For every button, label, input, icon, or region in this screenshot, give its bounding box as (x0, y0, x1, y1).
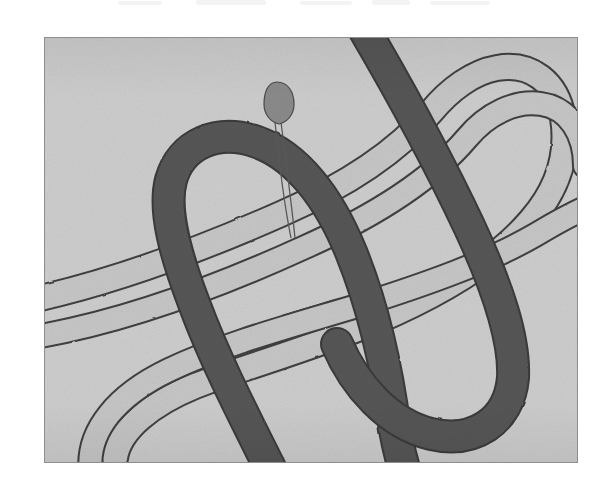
scan-artifact-speck (372, 0, 410, 5)
scan-artifact-speck (300, 1, 352, 5)
scan-artifact-speck (430, 1, 490, 5)
knot-diagram-svg (45, 38, 577, 462)
page-canvas (0, 0, 604, 492)
paper-grain-overlay (45, 38, 577, 462)
scan-artifact-speck (118, 1, 162, 5)
knot-diagram-figure (44, 37, 578, 463)
scan-artifact-speck (196, 0, 266, 5)
